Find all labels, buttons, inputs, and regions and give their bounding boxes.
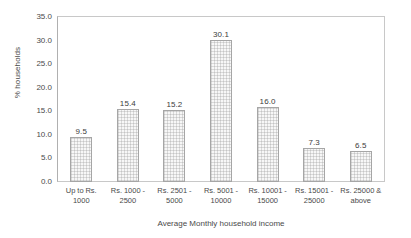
x-axis-tick-label-line: Rs. 15001 - xyxy=(292,186,337,196)
x-axis-tick-labels: Up to Rs.1000Rs. 1000 -2500Rs. 2501 -500… xyxy=(58,186,384,206)
bar[interactable]: 9.5 xyxy=(70,137,92,182)
bar-chart: % households 0.05.010.015.020.025.030.03… xyxy=(0,0,411,238)
bar[interactable]: 15.4 xyxy=(117,109,139,182)
bar-value-label: 15.2 xyxy=(166,100,182,109)
x-axis-tick-label-line: 15000 xyxy=(245,196,290,206)
bar-value-label: 15.4 xyxy=(120,99,136,108)
x-axis-tick-label-line: Up to Rs. xyxy=(59,186,104,196)
x-axis-tick-label: Rs. 25000 &above xyxy=(337,186,384,206)
y-axis-tick-labels: 0.05.010.015.020.025.030.035.0 xyxy=(18,16,52,182)
bar[interactable]: 15.2 xyxy=(163,110,185,182)
x-axis-title: Average Monthly household income xyxy=(57,219,385,228)
x-axis-tick-label-line: Rs. 25000 & xyxy=(338,186,383,196)
x-axis-tick-label: Rs. 2501 -5000 xyxy=(151,186,198,206)
bar-slot: 7.3 xyxy=(291,17,338,182)
y-axis-tick-label: 35.0 xyxy=(18,12,52,21)
y-axis-tick-label: 5.0 xyxy=(18,153,52,162)
x-axis-tick-label-line: Rs. 1000 - xyxy=(106,186,151,196)
bar[interactable]: 30.1 xyxy=(210,40,232,182)
y-axis-tick-label: 30.0 xyxy=(18,35,52,44)
bar-slot: 6.5 xyxy=(337,17,384,182)
x-axis-tick-label-line: 25000 xyxy=(292,196,337,206)
y-axis-tick-label: 20.0 xyxy=(18,82,52,91)
bar-value-label: 16.0 xyxy=(260,97,276,106)
y-axis-tick-label: 15.0 xyxy=(18,106,52,115)
bar-slot: 16.0 xyxy=(244,17,291,182)
x-axis-tick-label: Rs. 1000 -2500 xyxy=(105,186,152,206)
bar[interactable]: 6.5 xyxy=(350,151,372,182)
x-axis-tick-label-line: Rs. 2501 - xyxy=(152,186,197,196)
bar[interactable]: 16.0 xyxy=(257,107,279,182)
x-axis-tick-label: Up to Rs.1000 xyxy=(58,186,105,206)
x-axis-tick-label-line: 5000 xyxy=(152,196,197,206)
x-axis-tick-label-line: Rs. 10001 - xyxy=(245,186,290,196)
bar-slot: 15.2 xyxy=(151,17,198,182)
x-axis-tick-label-line: 10000 xyxy=(199,196,244,206)
bar-slot: 15.4 xyxy=(105,17,152,182)
x-axis-tick-label: Rs. 5001 -10000 xyxy=(198,186,245,206)
bar[interactable]: 7.3 xyxy=(303,148,325,182)
x-axis-tick-label-line: Rs. 5001 - xyxy=(199,186,244,196)
bar-slot: 30.1 xyxy=(198,17,245,182)
bar-value-label: 6.5 xyxy=(355,141,366,150)
x-axis-tick-label-line: above xyxy=(338,196,383,206)
bar-value-label: 9.5 xyxy=(76,127,87,136)
y-axis-tick-label: 0.0 xyxy=(18,177,52,186)
x-axis-tick-label: Rs. 15001 -25000 xyxy=(291,186,338,206)
x-axis-tick-label-line: 2500 xyxy=(106,196,151,206)
bar-slot: 9.5 xyxy=(58,17,105,182)
bar-value-label: 7.3 xyxy=(308,138,319,147)
y-axis-tick-label: 25.0 xyxy=(18,59,52,68)
y-axis-tick-label: 10.0 xyxy=(18,129,52,138)
x-axis-tick-label-line: 1000 xyxy=(59,196,104,206)
x-axis-tick-label: Rs. 10001 -15000 xyxy=(244,186,291,206)
bar-value-label: 30.1 xyxy=(213,30,229,39)
bar-series: 9.515.415.230.116.07.36.5 xyxy=(58,17,384,182)
